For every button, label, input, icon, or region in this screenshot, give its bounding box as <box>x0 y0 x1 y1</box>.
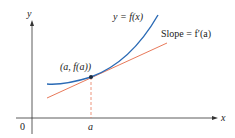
point-label: (a, f(a)) <box>60 61 92 73</box>
function-curve <box>47 15 158 84</box>
y-axis-arrow <box>30 20 34 26</box>
tangent-point <box>89 75 93 79</box>
y-axis-label: y <box>26 8 32 19</box>
x-axis-label: x <box>220 112 226 123</box>
tick-label-a: a <box>88 121 93 132</box>
origin-label: 0 <box>20 121 25 132</box>
slope-label: Slope = f′(a) <box>161 28 211 40</box>
x-axis-arrow <box>212 116 218 120</box>
curve-label: y = f(x) <box>112 11 144 23</box>
tangent-line-diagram: y x 0 a y = f(x) Slope = f′(a) (a, f(a)) <box>0 0 235 138</box>
